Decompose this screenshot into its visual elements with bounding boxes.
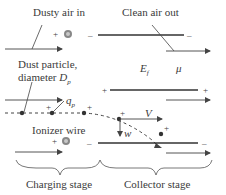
charging-stage-brace	[16, 160, 100, 175]
charge-leader	[52, 101, 64, 113]
label-dust-particle: Dust particle,	[18, 58, 77, 70]
label-clean-air-out: Clean air out	[122, 6, 179, 18]
minus-sign: –	[202, 139, 207, 148]
dust-particle-5	[159, 132, 163, 136]
minus-sign: –	[88, 31, 93, 40]
label-collector-stage: Collector stage	[124, 178, 190, 190]
label-dusty-air-in: Dusty air in	[33, 6, 85, 18]
dusty-air-leader	[32, 25, 42, 49]
plus-sign: +	[53, 30, 58, 39]
plus-sign: +	[52, 137, 57, 146]
collector-stage-brace	[100, 160, 212, 175]
diagram-graphics	[0, 0, 226, 195]
label-w: w	[124, 127, 131, 139]
dust-particle-1	[20, 111, 24, 115]
label-ionizer-wire: Ionizer wire	[32, 124, 85, 136]
electrostatic-precipitator-diagram: Dusty air in Clean air out Dust particle…	[0, 0, 226, 195]
label-mu: μ	[176, 62, 182, 74]
plus-sign: +	[120, 109, 125, 118]
label-charging-stage: Charging stage	[26, 178, 92, 190]
dust-particle-3	[82, 111, 86, 115]
plus-sign: +	[46, 103, 51, 112]
minus-sign: –	[87, 139, 92, 148]
label-qp: qp	[66, 94, 75, 111]
plus-sign: +	[164, 124, 169, 133]
label-diameter: diameter Dp	[18, 71, 71, 88]
plus-sign: +	[203, 86, 208, 95]
label-V: V	[145, 107, 152, 119]
clean-air-leader	[152, 25, 174, 51]
plus-sign: +	[87, 103, 92, 112]
minus-sign: –	[187, 31, 192, 40]
plus-sign: +	[102, 86, 107, 95]
label-Ef: Ef	[140, 62, 149, 79]
